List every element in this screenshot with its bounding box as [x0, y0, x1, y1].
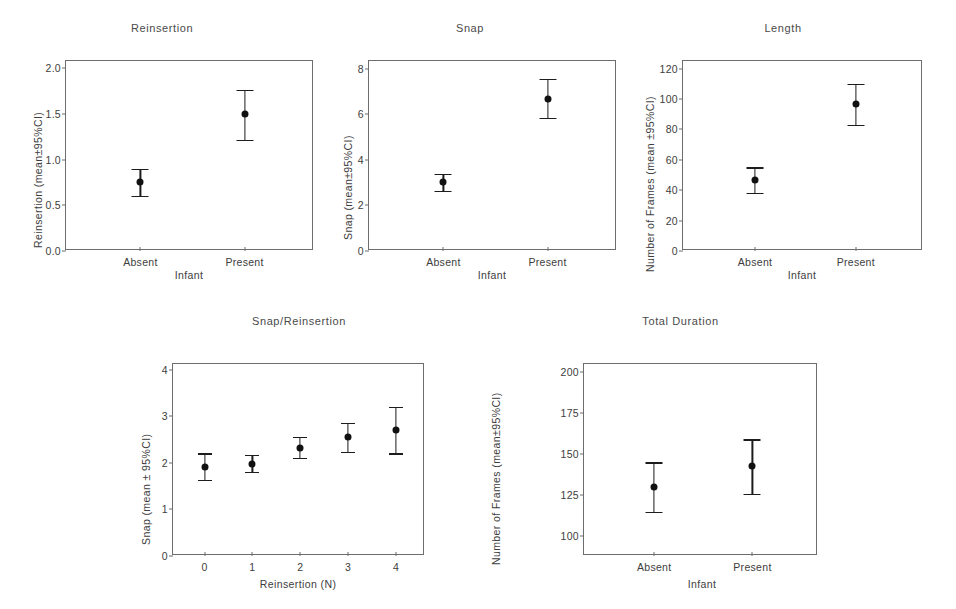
errorbar-cap-lower: [236, 140, 253, 141]
x-axis-tick-mark-total-duration: [752, 552, 753, 556]
y-axis-tick-length: 60: [666, 154, 683, 166]
errorbar-cap-lower: [435, 191, 452, 192]
errorbar-cap-upper: [847, 84, 864, 85]
y-axis-tick-snap-reinsertion: 3: [162, 410, 173, 422]
data-point-marker: [241, 110, 248, 117]
y-axis-tick-snap-reinsertion: 1: [162, 503, 173, 515]
panel-total-duration: Total Duration Number of Frames (mean±95…: [480, 315, 825, 595]
y-axis-label-reinsertion: Reinsertion (mean±95%CI): [32, 112, 44, 248]
x-axis-label-length: Infant: [788, 269, 817, 281]
panel-snap: Snap Snap (mean±95%CI) 02468AbsentPresen…: [330, 22, 630, 282]
x-axis-tick-reinsertion: Absent: [123, 256, 158, 268]
plot-area-snap-reinsertion: 0123401234: [172, 363, 424, 555]
errorbar-cap-lower: [847, 125, 864, 126]
errorbar-cap-upper: [744, 439, 761, 440]
errorbar-cap-lower: [744, 494, 761, 495]
panel-snap-reinsertion: Snap/Reinsertion Snap (mean ± 95%CI) 012…: [130, 315, 440, 595]
y-axis-tick-total-duration: 175: [561, 407, 584, 419]
y-axis-tick-length: 0: [672, 245, 683, 257]
errorbar-cap-lower: [341, 452, 355, 453]
y-axis-tick-length: 40: [666, 184, 683, 196]
errorbar-cap-lower: [389, 453, 403, 454]
x-axis-tick-reinsertion: Present: [225, 256, 263, 268]
x-axis-tick-snap-reinsertion: 4: [393, 561, 399, 573]
plot-area-snap: 02468AbsentPresent: [368, 60, 616, 250]
y-axis-tick-reinsertion: 1.5: [46, 108, 67, 120]
x-axis-tick-snap-reinsertion: 3: [345, 561, 351, 573]
data-point-marker: [651, 484, 658, 491]
x-axis-tick-snap: Absent: [426, 256, 461, 268]
panel-reinsertion: Reinsertion Reinsertion (mean±95%CI) 0.0…: [20, 22, 320, 282]
x-axis-tick-mark-length: [855, 247, 856, 251]
panel-title-reinsertion: Reinsertion: [12, 22, 312, 34]
y-axis-tick-total-duration: 100: [561, 530, 584, 542]
y-axis-label-total-duration: Number of Frames (mean±95%CI): [490, 392, 502, 565]
x-axis-tick-mark-snap-reinsertion: [204, 552, 205, 556]
y-axis-label-length: Number of Frames (mean ±95%CI): [644, 96, 656, 272]
plot-area-length: 020406080100120AbsentPresent: [682, 60, 922, 250]
x-axis-tick-mark-snap-reinsertion: [300, 552, 301, 556]
panel-length: Length Number of Frames (mean ±95%CI) 02…: [634, 22, 944, 282]
errorbar-cap-lower: [539, 118, 556, 119]
errorbar-cap-lower: [293, 458, 307, 459]
y-axis-tick-length: 20: [666, 215, 683, 227]
plot-area-total-duration: 100125150175200AbsentPresent: [583, 363, 817, 555]
data-point-marker: [544, 95, 551, 102]
data-point-marker: [345, 434, 352, 441]
figure-multi-panel-error-bar-plots: Reinsertion Reinsertion (mean±95%CI) 0.0…: [0, 0, 956, 609]
y-axis-tick-reinsertion: 0.0: [46, 245, 67, 257]
x-axis-tick-snap-reinsertion: 1: [249, 561, 255, 573]
errorbar-cap-upper: [646, 462, 663, 463]
y-axis-tick-snap: 8: [358, 63, 369, 75]
data-point-marker: [440, 178, 447, 185]
y-axis-tick-total-duration: 150: [561, 448, 584, 460]
y-axis-tick-length: 80: [666, 123, 683, 135]
errorbar-cap-lower: [747, 193, 764, 194]
data-point-marker: [752, 176, 759, 183]
y-axis-tick-snap-reinsertion: 4: [162, 364, 173, 376]
x-axis-tick-mark-snap: [443, 247, 444, 251]
x-axis-tick-snap-reinsertion: 2: [297, 561, 303, 573]
y-axis-tick-snap-reinsertion: 0: [162, 550, 173, 562]
x-axis-tick-mark-length: [755, 247, 756, 251]
x-axis-tick-total-duration: Absent: [637, 561, 672, 573]
y-axis-tick-snap: 2: [358, 199, 369, 211]
errorbar-cap-lower: [132, 196, 149, 197]
errorbar-cap-upper: [539, 79, 556, 80]
y-axis-tick-snap: 6: [358, 108, 369, 120]
x-axis-tick-mark-snap-reinsertion: [348, 552, 349, 556]
page-footer-text: [24, 598, 27, 607]
y-axis-tick-length: 120: [660, 63, 683, 75]
y-axis-label-snap: Snap (mean±95%CI): [342, 135, 354, 240]
x-axis-tick-mark-reinsertion: [244, 247, 245, 251]
y-axis-tick-snap: 4: [358, 154, 369, 166]
data-point-marker: [297, 444, 304, 451]
panel-title-snap-reinsertion: Snap/Reinsertion: [144, 315, 454, 327]
data-point-marker: [137, 179, 144, 186]
panel-title-length: Length: [628, 22, 938, 34]
x-axis-tick-length: Absent: [738, 256, 773, 268]
y-axis-tick-snap: 0: [358, 245, 369, 257]
data-point-marker: [393, 427, 400, 434]
y-axis-tick-total-duration: 200: [561, 366, 584, 378]
x-axis-label-snap: Infant: [478, 269, 507, 281]
y-axis-tick-reinsertion: 2.0: [46, 62, 67, 74]
x-axis-label-reinsertion: Infant: [175, 269, 204, 281]
panel-title-snap: Snap: [320, 22, 620, 34]
errorbar-cap-upper: [293, 437, 307, 438]
x-axis-label-total-duration: Infant: [688, 578, 717, 590]
y-axis-tick-snap-reinsertion: 2: [162, 457, 173, 469]
y-axis-tick-length: 100: [660, 93, 683, 105]
y-axis-label-snap-reinsertion: Snap (mean ± 95%CI): [140, 434, 152, 545]
errorbar-cap-upper: [341, 423, 355, 424]
x-axis-label-snap-reinsertion: Reinsertion (N): [260, 578, 337, 590]
x-axis-tick-snap: Present: [528, 256, 566, 268]
errorbar-cap-upper: [245, 455, 259, 456]
data-point-marker: [201, 463, 208, 470]
x-axis-tick-length: Present: [837, 256, 875, 268]
errorbar-cap-upper: [236, 90, 253, 91]
errorbar-cap-lower: [198, 480, 212, 481]
errorbar-cap-upper: [389, 407, 403, 408]
errorbar-cap-upper: [132, 169, 149, 170]
x-axis-tick-mark-snap-reinsertion: [252, 552, 253, 556]
